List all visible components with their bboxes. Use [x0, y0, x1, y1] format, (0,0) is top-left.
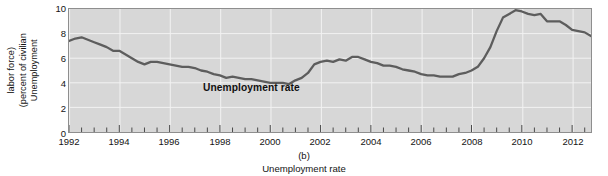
y-tick-label-4: 4 — [48, 79, 66, 89]
panel-label: (b) — [0, 150, 608, 161]
y-tick-label-8: 8 — [48, 29, 66, 39]
gridlines — [69, 9, 591, 132]
x-tick-label-1998: 1998 — [209, 136, 230, 147]
x-tick-label-1992: 1992 — [58, 136, 79, 147]
y-tick-label-10: 10 — [48, 4, 66, 14]
x-tick-label-2010: 2010 — [511, 136, 532, 147]
y-axis-title: Unemployment (percent of civilian labor … — [0, 0, 46, 140]
y-tick-label-6: 6 — [48, 54, 66, 64]
x-tick-label-2000: 2000 — [259, 136, 280, 147]
x-tick-label-2012: 2012 — [562, 136, 583, 147]
series-annotation-label: Unemployment rate — [203, 82, 300, 93]
y-axis-title-lines: Unemployment (percent of civilian labor … — [6, 33, 41, 107]
x-tick-label-1994: 1994 — [108, 136, 129, 147]
x-axis-tick-labels: 1992 1994 1996 1998 2000 2002 2004 2006 … — [68, 136, 592, 150]
y-axis-title-line-3: labor force) — [6, 47, 18, 93]
x-tick-label-2002: 2002 — [309, 136, 330, 147]
x-tick-label-2004: 2004 — [360, 136, 381, 147]
x-axis-tick-marks — [69, 125, 585, 132]
unemployment-rate-line — [69, 10, 591, 84]
plot-svg — [69, 9, 591, 132]
x-tick-label-2008: 2008 — [461, 136, 482, 147]
y-axis-tick-labels: 10 8 6 4 2 0 — [44, 0, 66, 140]
y-tick-label-2: 2 — [48, 104, 66, 114]
y-axis-title-line-2: (percent of civilian — [17, 33, 29, 107]
figure-subtitle: Unemployment rate — [0, 163, 608, 174]
unemployment-rate-chart-figure: Unemployment (percent of civilian labor … — [0, 0, 608, 176]
plot-area — [68, 8, 592, 133]
x-tick-label-2006: 2006 — [410, 136, 431, 147]
x-tick-label-1996: 1996 — [158, 136, 179, 147]
y-axis-title-line-1: Unemployment — [29, 39, 41, 101]
